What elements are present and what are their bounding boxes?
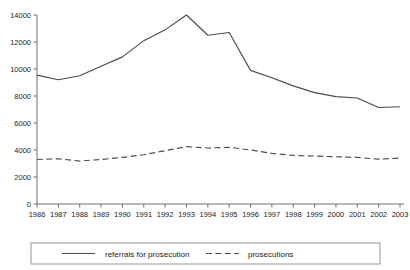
y-axis: 02000400060008000100001200014000	[10, 11, 37, 209]
x-tick-label: 2001	[349, 210, 366, 219]
x-tick-label: 1992	[157, 210, 174, 219]
x-tick-label: 2000	[328, 210, 345, 219]
x-tick-label: 2003	[392, 210, 409, 219]
y-tick-label: 10000	[10, 65, 31, 74]
x-axis: 1986198719881989199019911992199319941995…	[29, 204, 409, 219]
x-tick-label: 1996	[242, 210, 259, 219]
y-tick-label: 2000	[14, 173, 31, 182]
y-tick-group: 02000400060008000100001200014000	[10, 11, 37, 209]
x-tick-label: 2002	[370, 210, 387, 219]
y-tick-label: 14000	[10, 11, 31, 20]
x-tick-label: 1995	[221, 210, 238, 219]
y-tick-label: 12000	[10, 38, 31, 47]
x-tick-label: 1988	[71, 210, 88, 219]
line-chart: 02000400060008000100001200014000 1986198…	[0, 0, 410, 270]
x-tick-label: 1993	[178, 210, 195, 219]
series-line-referrals-for-prosecution	[37, 15, 400, 107]
x-tick-label: 1989	[93, 210, 110, 219]
x-tick-label: 1990	[114, 210, 131, 219]
x-tick-label: 1986	[29, 210, 46, 219]
x-tick-label: 1987	[50, 210, 67, 219]
x-tick-label: 1994	[199, 210, 216, 219]
y-tick-label: 0	[27, 200, 31, 209]
chart-canvas: 02000400060008000100001200014000 1986198…	[0, 0, 410, 270]
data-series-group	[37, 15, 400, 161]
x-tick-label: 1997	[264, 210, 281, 219]
x-tick-group: 1986198719881989199019911992199319941995…	[29, 204, 409, 219]
x-tick-label: 1999	[306, 210, 323, 219]
legend-label: referrals for prosecution	[105, 250, 189, 259]
y-tick-label: 6000	[14, 119, 31, 128]
y-tick-label: 4000	[14, 146, 31, 155]
x-tick-label: 1991	[135, 210, 152, 219]
y-tick-label: 8000	[14, 92, 31, 101]
chart-legend: referrals for prosecutionprosecutions	[31, 243, 380, 264]
series-line-prosecutions	[37, 147, 400, 161]
x-tick-label: 1998	[285, 210, 302, 219]
legend-label: prosecutions	[248, 250, 293, 259]
